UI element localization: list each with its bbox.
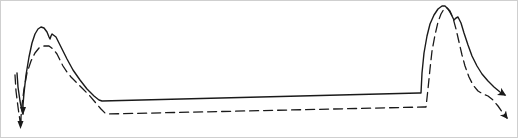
- line-chart-plot: [1, 1, 518, 138]
- left-arrowhead-dashed-icon: [18, 121, 24, 129]
- series-group: [15, 6, 507, 127]
- left-arrowhead-solid-icon: [20, 107, 26, 115]
- series-dashed-curve: [15, 8, 507, 127]
- series-solid-curve: [17, 6, 505, 114]
- chart-figure: [0, 0, 518, 138]
